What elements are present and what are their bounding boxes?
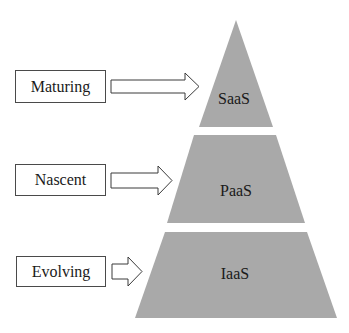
tier-paas-shape [167, 135, 305, 223]
arrow-right-icon [111, 73, 199, 100]
stage-label-maturing: Maturing [15, 70, 106, 103]
tier-label-iaas: IaaS [221, 265, 249, 283]
stage-label-text: Nascent [35, 171, 87, 189]
tier-label-saas: SaaS [218, 90, 250, 108]
tier-label-paas: PaaS [220, 182, 252, 200]
arrow-right-icon [111, 166, 172, 195]
arrow-right-icon [112, 257, 142, 286]
stage-label-text: Maturing [31, 78, 91, 96]
stage-label-text: Evolving [32, 263, 91, 281]
stage-label-evolving: Evolving [16, 256, 106, 287]
tier-saas-shape [199, 20, 273, 127]
stage-label-nascent: Nascent [15, 164, 106, 196]
